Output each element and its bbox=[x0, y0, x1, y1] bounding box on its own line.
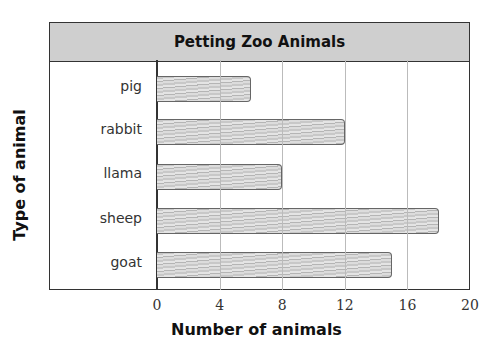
gridline bbox=[220, 60, 221, 290]
bar-pig bbox=[157, 76, 251, 102]
y-axis-label: Type of animal bbox=[10, 160, 29, 190]
x-tick: 8 bbox=[278, 297, 287, 313]
x-tick: 4 bbox=[215, 297, 224, 313]
category-label: goat bbox=[110, 254, 142, 270]
x-axis-label: Number of animals bbox=[171, 320, 342, 339]
category-label: sheep bbox=[100, 210, 142, 226]
x-tick: 20 bbox=[461, 297, 479, 313]
bar-rabbit bbox=[157, 119, 345, 145]
bar-goat bbox=[157, 252, 392, 278]
category-label: rabbit bbox=[101, 121, 143, 137]
x-tick: 16 bbox=[398, 297, 416, 313]
gridline bbox=[407, 60, 408, 290]
title-band: Petting Zoo Animals bbox=[50, 23, 469, 62]
x-tick: 12 bbox=[336, 297, 354, 313]
bar-sheep bbox=[157, 208, 439, 234]
gridline bbox=[345, 60, 346, 290]
x-tick: 0 bbox=[153, 297, 162, 313]
category-label: pig bbox=[120, 78, 142, 94]
category-label: llama bbox=[103, 165, 142, 181]
chart-title: Petting Zoo Animals bbox=[174, 33, 345, 51]
gridline bbox=[282, 60, 283, 290]
